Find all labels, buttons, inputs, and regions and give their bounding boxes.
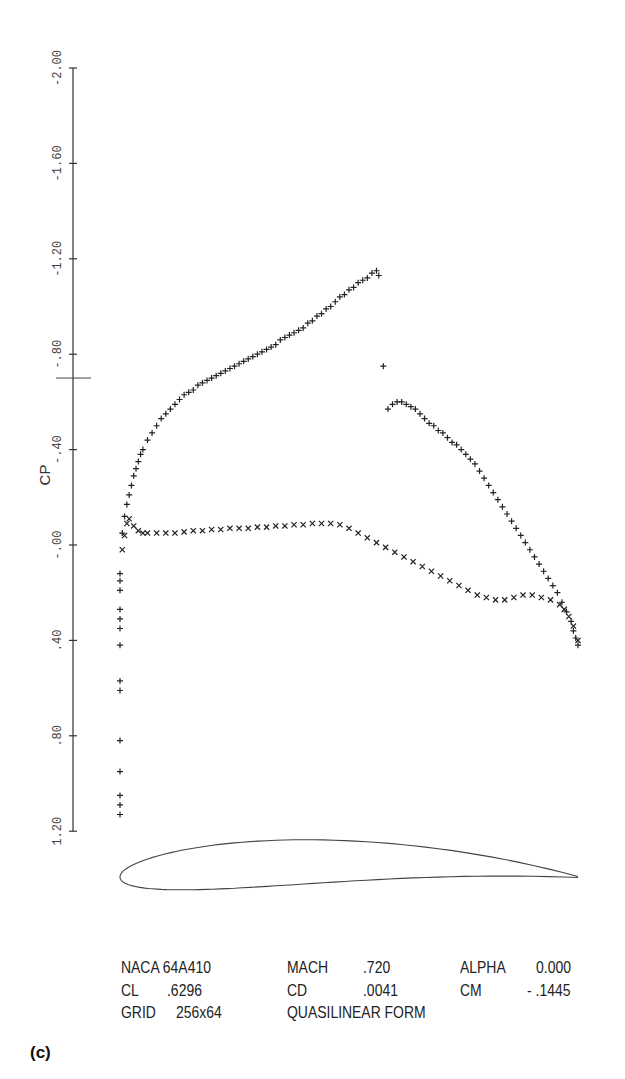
grid-value: 256x64 [176,1003,222,1023]
alpha-value: 0.000 [536,958,571,978]
panel-label: (c) [30,1043,51,1063]
cl-label: CL [121,981,139,1001]
y-tick-label: -1.60 [51,145,65,181]
y-tick-label: -.80 [51,340,65,369]
airfoil-name: NACA 64A410 [121,958,211,978]
y-tick-label: -1.20 [51,241,65,277]
cm-value: - .1445 [527,981,570,1001]
alpha-label: ALPHA [460,958,506,978]
y-tick-label: .80 [51,725,65,747]
cp-distribution-chart: -2.00-1.60-1.20-.80-.40-.00.40.801.20 CP [0,0,625,940]
data-series [117,268,581,818]
mach-label: MACH [287,958,328,978]
cd-value: .0041 [363,981,398,1001]
cl-value: .6296 [167,981,202,1001]
y-tick-label: .40 [51,630,65,652]
y-axis-label: CP [36,465,53,486]
y-tick-label: -.40 [51,435,65,464]
y-tick-label: -2.00 [51,50,65,86]
y-tick-label: -.00 [51,531,65,560]
cm-label: CM [460,981,482,1001]
mach-value: .720 [363,958,390,978]
airfoil-outline [120,840,578,890]
cd-label: CD [287,981,307,1001]
grid-label: GRID [121,1003,156,1023]
y-axis: -2.00-1.60-1.20-.80-.40-.00.40.801.20 [51,50,91,846]
solver-form: QUASILINEAR FORM [287,1003,426,1023]
y-tick-label: 1.20 [51,817,65,846]
